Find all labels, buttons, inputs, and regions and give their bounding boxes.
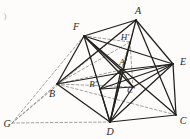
edge-Hp-Cp	[130, 42, 133, 87]
vertex-label-Bp: B'	[89, 80, 96, 89]
vertex-label-B: B	[49, 89, 55, 99]
geometry-figure: ABCDEFGA'B'C'H' )	[0, 0, 190, 139]
edge-B-D	[57, 84, 110, 122]
vertex-label-Cp: C'	[127, 86, 135, 95]
edge-D-C	[110, 115, 176, 122]
edge-F-B	[57, 36, 84, 84]
vertex-label-D: D	[106, 127, 113, 137]
vertex-label-E: E	[180, 57, 186, 67]
vertex-label-Hp: H'	[121, 33, 129, 42]
edge-G-F	[12, 36, 84, 123]
vertex-label-Ap: A'	[119, 58, 126, 67]
edge-G-D	[12, 122, 110, 123]
vertex-label-A: A	[135, 6, 141, 16]
edge-D-Bp	[100, 89, 110, 122]
vertex-label-G: G	[3, 119, 10, 129]
vertex-label-F: F	[73, 22, 79, 32]
figure-corner-mark: )	[4, 11, 7, 21]
figure-canvas	[0, 0, 190, 139]
vertex-label-C: C	[180, 116, 187, 126]
edge-A-E	[136, 20, 173, 64]
